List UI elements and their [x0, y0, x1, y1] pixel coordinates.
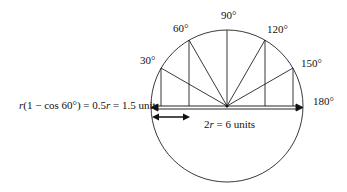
formula-label: r(1 − cos 60°) = 0.5r = 1.5 unit [19, 99, 156, 112]
radius-120 [227, 40, 265, 106]
circle-diagram: 30° 60° 90° 120° 150° 180° r(1 − cos 60°… [0, 0, 347, 192]
label-30: 30° [140, 54, 155, 66]
diameter-label: 2r = 6 units [204, 118, 255, 130]
label-120: 120° [267, 23, 288, 35]
label-90: 90° [221, 9, 236, 21]
label-150: 150° [301, 57, 322, 69]
short-arrow [152, 114, 190, 121]
radius-150 [227, 68, 293, 106]
label-60: 60° [173, 22, 188, 34]
radius-30 [161, 68, 227, 106]
radius-60 [189, 40, 227, 106]
label-180: 180° [313, 95, 334, 107]
